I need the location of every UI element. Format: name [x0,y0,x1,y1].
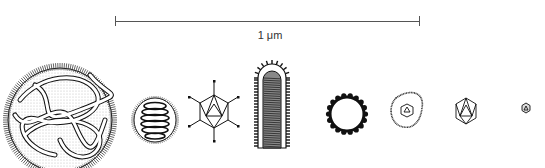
knobbed-ring-virus [326,93,368,135]
helical-coil-virus [131,96,179,144]
rod-shaped-virus [254,60,290,148]
icosahedral-virus [456,98,476,124]
tiny-icosahedral-virus [522,103,530,113]
virus-figures [0,0,545,168]
large-complex-virus [3,63,117,168]
spiked-icosahedral-virus [188,80,240,143]
enveloped-icosahedral-virus [391,93,422,128]
